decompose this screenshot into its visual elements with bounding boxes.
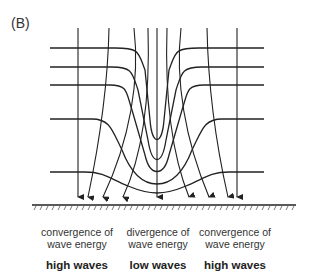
caption-left-line1: convergence of: [41, 226, 113, 238]
shoreline: [32, 205, 296, 210]
wave-rays: [78, 28, 237, 197]
caption-right-result: high waves: [185, 259, 285, 271]
caption-right-line2: wave energy: [205, 238, 265, 250]
caption-center-line2: wave energy: [128, 238, 188, 250]
caption-center-line1: divergence of: [126, 226, 189, 238]
caption-right: convergence of wave energy high waves: [185, 226, 285, 271]
caption-left-line2: wave energy: [47, 238, 107, 250]
caption-right-line1: convergence of: [199, 226, 271, 238]
